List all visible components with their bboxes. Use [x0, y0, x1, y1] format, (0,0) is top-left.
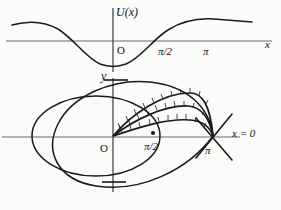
lower-tick-pi-over-2: π/2 — [144, 141, 158, 152]
upper-tick-pi-over-2: π/2 — [158, 46, 172, 57]
potential-curve — [12, 19, 252, 66]
lower-y-axis-label: y — [101, 70, 106, 82]
upper-plot — [6, 8, 272, 72]
upper-x-axis-label: x — [265, 39, 270, 50]
lower-tick-pi: π — [205, 145, 211, 156]
pi-over-2-marker — [151, 131, 155, 135]
physics-figure: U(x) x O π/2 π y O π/2 π x = 0 — [0, 0, 281, 210]
upper-origin-label: O — [117, 45, 125, 56]
hatched-trajectory-1 — [113, 88, 213, 136]
lower-origin-label: O — [100, 143, 108, 154]
figure-canvas — [0, 0, 281, 210]
upper-tick-pi: π — [203, 46, 209, 57]
closed-orbit — [32, 96, 160, 176]
lower-plot — [2, 78, 240, 192]
upper-y-axis-label: U(x) — [116, 6, 138, 18]
lower-axis-label: x = 0 — [232, 128, 255, 139]
